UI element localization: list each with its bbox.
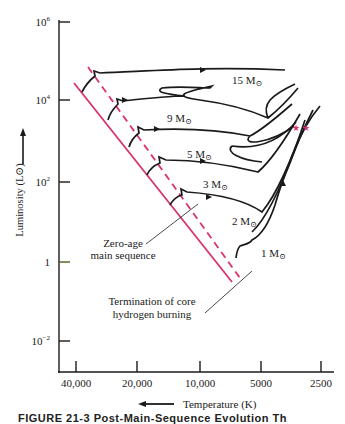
label-1msun: 1 M⊙	[261, 247, 286, 261]
x-tick-5000: 5000	[250, 377, 273, 389]
zams-label-line1: Zero-age	[103, 237, 143, 249]
x-axis-label: Temperature (K)	[138, 398, 257, 411]
track-5msun	[129, 104, 294, 147]
x-tick-10000: 10,000	[185, 377, 216, 389]
zams-leader-line	[146, 204, 198, 244]
y-tick-1e6: 106	[36, 15, 51, 28]
x-tick-40000: 40,000	[61, 377, 92, 389]
label-15msun: 15 M⊙	[232, 74, 262, 88]
svg-text:Temperature (K): Temperature (K)	[183, 398, 257, 411]
arrow-icon	[200, 67, 206, 73]
tams-label-line1: Termination of core	[108, 295, 195, 307]
arrow-icon	[122, 97, 128, 103]
tams-label-line2: hydrogen burning	[113, 308, 192, 320]
y-tick-1e-2: 10−2	[32, 334, 51, 347]
track-9msun	[108, 84, 298, 120]
label-5msun: 5 M⊙	[187, 148, 212, 162]
x-tick-labels: 40,000 20,000 10,000 5000 2500	[61, 377, 333, 389]
arrow-icon	[154, 126, 160, 132]
y-arrowhead-icon	[20, 128, 26, 136]
label-9msun: 9 M⊙	[167, 112, 192, 126]
star-icon: ★	[292, 123, 300, 133]
y-tick-1: 1	[45, 256, 51, 268]
label-2msun: 2 M⊙	[232, 215, 257, 229]
y-tick-labels: 106 104 102 1 10−2	[32, 15, 51, 347]
svg-text:Luminosity (L⊙): Luminosity (L⊙)	[14, 163, 26, 237]
y-axis-label: Luminosity (L⊙)	[14, 128, 26, 237]
x-tick-2500: 2500	[310, 377, 333, 389]
x-arrowhead-icon	[138, 401, 146, 407]
y-tick-1e4: 104	[36, 93, 51, 106]
star-icon: ★	[302, 123, 310, 133]
x-tick-20000: 20,000	[122, 377, 153, 389]
annotations: Zero-age main sequence Termination of co…	[90, 204, 252, 320]
zams-label-line2: main sequence	[90, 249, 155, 261]
y-tick-1e2: 102	[36, 175, 51, 188]
label-3msun: 3 M⊙	[203, 178, 228, 192]
figure-caption: FIGURE 21-3 Post-Main-Sequence Evolution…	[18, 412, 287, 424]
